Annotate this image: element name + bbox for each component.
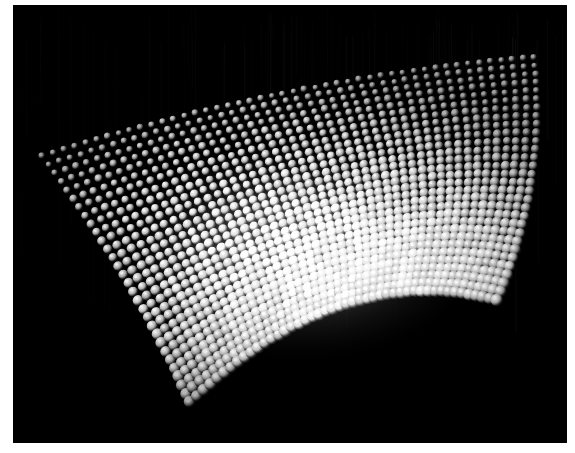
sphere-specular-highlight bbox=[213, 210, 216, 213]
sphere-specular-highlight bbox=[331, 129, 333, 131]
sphere-specular-highlight bbox=[353, 170, 356, 173]
sphere-specular-highlight bbox=[113, 201, 115, 203]
sphere-specular-highlight bbox=[174, 285, 177, 288]
lattice-sphere bbox=[106, 211, 114, 219]
lattice-sphere bbox=[155, 252, 164, 261]
sphere-specular-highlight bbox=[380, 240, 383, 243]
lattice-sphere bbox=[194, 198, 202, 206]
sphere-specular-highlight bbox=[318, 270, 322, 274]
lattice-sphere bbox=[121, 138, 128, 145]
sphere-specular-highlight bbox=[205, 151, 207, 153]
sphere-specular-highlight bbox=[97, 196, 99, 198]
sphere-specular-highlight bbox=[154, 130, 156, 132]
lattice-sphere bbox=[463, 116, 471, 124]
sphere-specular-highlight bbox=[500, 279, 504, 283]
lattice-sphere bbox=[145, 216, 154, 225]
lattice-sphere bbox=[412, 122, 420, 130]
lattice-sphere bbox=[198, 142, 206, 150]
sphere-specular-highlight bbox=[306, 94, 308, 96]
lattice-sphere bbox=[377, 72, 384, 79]
sphere-specular-highlight bbox=[124, 258, 127, 261]
lattice-sphere bbox=[522, 87, 530, 95]
sphere-specular-highlight bbox=[371, 285, 375, 289]
sphere-specular-highlight bbox=[217, 131, 219, 133]
sphere-specular-highlight bbox=[138, 181, 140, 183]
sphere-specular-highlight bbox=[379, 254, 383, 258]
sphere-specular-highlight bbox=[225, 188, 228, 191]
sphere-specular-highlight bbox=[233, 160, 235, 162]
sphere-specular-highlight bbox=[455, 195, 458, 198]
sphere-specular-highlight bbox=[200, 252, 203, 255]
sphere-specular-highlight bbox=[138, 162, 140, 164]
sphere-specular-highlight bbox=[449, 241, 453, 245]
sphere-specular-highlight bbox=[411, 235, 415, 239]
lattice-sphere bbox=[195, 134, 203, 142]
lattice-sphere bbox=[181, 113, 187, 119]
lattice-sphere bbox=[203, 107, 209, 113]
sphere-specular-highlight bbox=[258, 297, 261, 300]
lattice-sphere bbox=[93, 136, 99, 142]
sphere-specular-highlight bbox=[213, 166, 215, 168]
sphere-specular-highlight bbox=[117, 188, 120, 191]
lattice-sphere bbox=[529, 161, 538, 170]
sphere-specular-highlight bbox=[224, 355, 228, 359]
lattice-sphere bbox=[244, 115, 250, 121]
sphere-specular-highlight bbox=[230, 322, 234, 326]
sphere-specular-highlight bbox=[179, 149, 181, 151]
lattice-sphere bbox=[491, 89, 499, 97]
sphere-specular-highlight bbox=[349, 194, 352, 197]
sphere-specular-highlight bbox=[189, 339, 193, 343]
sphere-specular-highlight bbox=[77, 204, 79, 206]
lattice-sphere bbox=[257, 95, 264, 102]
sphere-specular-highlight bbox=[480, 202, 483, 205]
sphere-specular-highlight bbox=[231, 178, 234, 181]
sphere-specular-highlight bbox=[232, 302, 235, 305]
sphere-specular-highlight bbox=[247, 190, 250, 193]
lattice-sphere bbox=[232, 158, 240, 166]
sphere-specular-highlight bbox=[351, 208, 354, 211]
sphere-specular-highlight bbox=[482, 234, 485, 237]
sphere-specular-highlight bbox=[473, 187, 476, 190]
sphere-specular-highlight bbox=[302, 316, 306, 320]
lattice-sphere bbox=[191, 235, 201, 245]
lattice-sphere bbox=[502, 145, 511, 154]
sphere-specular-highlight bbox=[435, 271, 439, 275]
sphere-specular-highlight bbox=[344, 103, 346, 105]
lattice-sphere bbox=[533, 87, 540, 94]
sphere-specular-highlight bbox=[247, 267, 250, 270]
lattice-sphere bbox=[492, 137, 501, 146]
sphere-specular-highlight bbox=[186, 309, 190, 313]
sphere-specular-highlight bbox=[242, 132, 244, 134]
sphere-specular-highlight bbox=[258, 271, 261, 274]
sphere-specular-highlight bbox=[395, 133, 398, 136]
sphere-specular-highlight bbox=[184, 157, 186, 159]
sphere-specular-highlight bbox=[381, 165, 384, 168]
lattice-sphere bbox=[118, 270, 128, 280]
lattice-sphere bbox=[255, 136, 263, 144]
sphere-specular-highlight bbox=[206, 379, 210, 383]
sphere-specular-highlight bbox=[182, 281, 185, 284]
lattice-sphere bbox=[364, 98, 372, 106]
lattice-sphere bbox=[147, 158, 154, 165]
sphere-specular-highlight bbox=[188, 248, 191, 251]
sphere-specular-highlight bbox=[359, 154, 362, 157]
sphere-specular-highlight bbox=[385, 134, 388, 137]
sphere-specular-highlight bbox=[388, 239, 391, 242]
sphere-specular-highlight bbox=[206, 133, 208, 135]
sphere-specular-highlight bbox=[405, 131, 408, 134]
lattice-sphere bbox=[235, 142, 242, 149]
sphere-specular-highlight bbox=[359, 115, 361, 117]
sphere-specular-highlight bbox=[486, 251, 490, 255]
sphere-specular-highlight bbox=[377, 291, 381, 295]
lattice-sphere bbox=[397, 101, 404, 108]
lattice-sphere bbox=[303, 117, 310, 124]
sphere-specular-highlight bbox=[111, 142, 113, 144]
sphere-specular-highlight bbox=[183, 260, 186, 263]
sphere-lattice bbox=[13, 5, 567, 443]
lattice-sphere bbox=[445, 155, 454, 164]
sphere-specular-highlight bbox=[327, 222, 330, 225]
sphere-specular-highlight bbox=[456, 187, 459, 190]
lattice-sphere bbox=[523, 104, 531, 112]
sphere-specular-highlight bbox=[329, 191, 332, 194]
sphere-specular-highlight bbox=[157, 295, 160, 298]
